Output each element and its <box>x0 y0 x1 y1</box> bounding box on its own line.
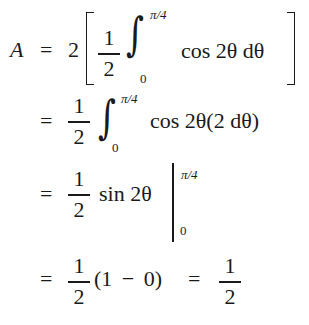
denominator: 2 <box>98 58 120 80</box>
denominator: 2 <box>68 286 90 308</box>
expression: (1 − 0) <box>94 268 162 290</box>
integral-sign: ∫ <box>126 11 144 57</box>
integrand: cos 2θ dθ <box>181 40 264 62</box>
upper-limit: π/4 <box>121 92 138 105</box>
integrand: cos 2θ(2 dθ) <box>150 110 259 132</box>
denominator: 2 <box>68 199 90 221</box>
upper-limit: π/4 <box>150 8 167 21</box>
numerator: 1 <box>68 255 90 277</box>
numerator: 1 <box>219 255 241 277</box>
fraction-bar <box>68 121 90 123</box>
evaluation-bar <box>172 163 174 242</box>
expression: sin 2θ <box>99 183 152 205</box>
upper-limit: π/4 <box>181 168 198 181</box>
equals-sign: = <box>40 110 52 132</box>
numerator: 1 <box>98 27 120 49</box>
fraction-bar <box>68 281 90 283</box>
equals-sign: = <box>40 268 52 290</box>
denominator: 2 <box>219 286 241 308</box>
fraction-bar <box>219 281 241 283</box>
fraction-bar <box>68 194 90 196</box>
equals-sign: = <box>40 39 52 61</box>
equals-sign-2: = <box>188 268 200 290</box>
fraction-half: 1 2 <box>98 27 120 80</box>
denominator: 2 <box>68 126 90 148</box>
equals-sign: = <box>40 183 52 205</box>
fraction-half: 1 2 <box>68 255 90 308</box>
fraction-bar <box>98 53 120 55</box>
lower-limit: 0 <box>112 141 119 154</box>
right-bracket <box>287 12 295 85</box>
numerator: 1 <box>68 95 90 117</box>
integral-sign: ∫ <box>98 94 116 140</box>
coefficient: 2 <box>68 39 79 61</box>
fraction-half: 1 2 <box>68 168 90 221</box>
variable-a: A <box>10 39 23 61</box>
left-bracket <box>86 12 94 85</box>
lower-limit: 0 <box>180 224 187 237</box>
result-fraction: 1 2 <box>219 255 241 308</box>
fraction-half: 1 2 <box>68 95 90 148</box>
numerator: 1 <box>68 168 90 190</box>
lower-limit: 0 <box>140 72 147 85</box>
